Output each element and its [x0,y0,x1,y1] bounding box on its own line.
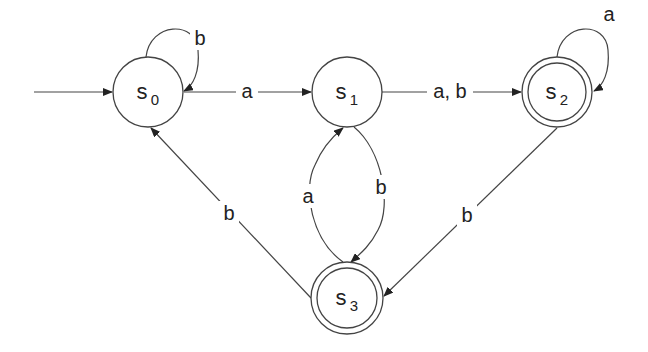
state-label: s [137,79,148,104]
state-label: s [336,79,347,104]
state-s3: s 3 [311,262,383,334]
state-circle [312,57,382,127]
edge-label-s3-s1: a [302,185,314,207]
diagram-svg: b a a, b a b a b b s 0 s 1 s 2 [0,0,648,352]
state-inner-circle [317,268,377,328]
edge-label-s1-s2: a, b [433,80,466,102]
state-subscript: 1 [350,91,358,108]
state-s2: s 2 [522,57,592,127]
state-s0: s 0 [113,57,183,127]
state-subscript: 0 [151,91,159,108]
state-subscript: 2 [560,91,568,108]
edge-label-s3-s0: b [223,202,234,224]
state-label: s [546,79,557,104]
state-subscript: 3 [350,297,358,314]
edge-label-s2-s2: a [603,3,615,25]
state-label: s [336,285,347,310]
edge-label-s2-s3: b [461,204,472,226]
edge-label-s0-s0: b [194,27,205,49]
automaton-diagram: b a a, b a b a b b s 0 s 1 s 2 [0,0,648,352]
edge-label-s1-s3: b [375,176,386,198]
state-circle [113,57,183,127]
state-inner-circle [528,63,586,121]
edge-label-s0-s1: a [241,80,253,102]
state-s1: s 1 [312,57,382,127]
